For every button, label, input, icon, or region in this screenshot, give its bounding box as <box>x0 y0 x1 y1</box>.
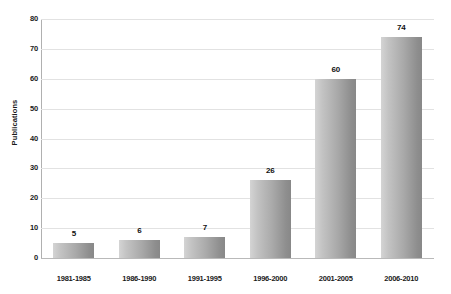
gridline <box>41 49 434 50</box>
y-axis-tick-label: 20 <box>4 195 38 203</box>
gridline <box>41 79 434 80</box>
bar <box>381 37 422 258</box>
bar <box>315 79 356 258</box>
y-axis-tick-label: 0 <box>4 254 38 262</box>
gridline <box>41 228 434 229</box>
bar-value-label: 26 <box>240 167 301 175</box>
bar-value-label: 74 <box>371 24 432 32</box>
bar <box>184 237 225 258</box>
bar-value-label: 60 <box>305 66 366 74</box>
y-axis-tick-label: 50 <box>4 105 38 113</box>
bar-value-label: 7 <box>174 224 235 232</box>
bar <box>53 243 94 258</box>
bar-value-label: 5 <box>43 230 104 238</box>
y-axis-tick-label: 80 <box>4 15 38 23</box>
bar <box>119 240 160 258</box>
gridline <box>41 258 434 259</box>
bar <box>250 180 291 258</box>
gridline <box>41 19 434 20</box>
x-axis-tick-label: 2006-2010 <box>361 275 441 283</box>
bar-chart: Publications 01020304050607080 567266074… <box>0 0 451 294</box>
gridline <box>41 168 434 169</box>
y-axis-tick-label: 40 <box>4 135 38 143</box>
bar-value-label: 6 <box>109 227 170 235</box>
gridline <box>41 198 434 199</box>
y-axis-tick-label: 60 <box>4 75 38 83</box>
gridline <box>41 139 434 140</box>
plot-area: 567266074 <box>41 19 434 258</box>
y-axis-tick-label: 10 <box>4 224 38 232</box>
y-axis-tick-label: 30 <box>4 165 38 173</box>
y-axis-tick-label: 70 <box>4 45 38 53</box>
gridline <box>41 109 434 110</box>
chart-title <box>0 0 451 7</box>
y-axis-tick-labels: 01020304050607080 <box>0 0 38 294</box>
